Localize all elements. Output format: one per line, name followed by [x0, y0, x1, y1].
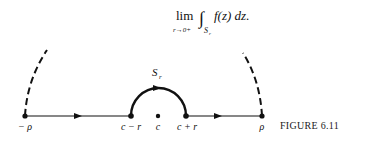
label-c-plus-r: c + r: [177, 121, 197, 132]
semicircle-label: S: [152, 66, 158, 78]
point-c-plus-r: [183, 113, 189, 119]
semicircle-label-index: r: [159, 73, 162, 81]
contour-figure: lim r→0+ ∫ S r f(z) dz. S r − ρ c − r c …: [0, 0, 366, 142]
lim-text: lim: [176, 8, 193, 23]
arrow-right-icon: [153, 85, 161, 91]
point-minus-rho: [22, 113, 27, 118]
arrow-right-icon: [74, 113, 82, 119]
label-c: c: [156, 121, 161, 132]
limit-formula: lim r→0+ ∫ S r f(z) dz.: [173, 8, 249, 36]
semicircle-sr: [131, 88, 186, 116]
integrand: f(z) dz.: [214, 8, 249, 23]
point-rho: [259, 113, 264, 118]
label-rho: ρ: [259, 121, 265, 132]
dashed-arc-right: [243, 53, 262, 116]
label-c-minus-r: c − r: [121, 121, 141, 132]
dashed-arc-left: [25, 50, 47, 116]
point-c-minus-r: [128, 113, 134, 119]
integral-subscript: S: [204, 26, 208, 35]
label-minus-rho: − ρ: [18, 121, 32, 132]
arrow-right-icon: [214, 113, 222, 119]
figure-caption: FIGURE 6.11: [280, 120, 339, 131]
point-c: [156, 114, 160, 118]
integral-subscript-index: r: [209, 31, 211, 36]
lim-subscript: r→0+: [173, 26, 191, 34]
